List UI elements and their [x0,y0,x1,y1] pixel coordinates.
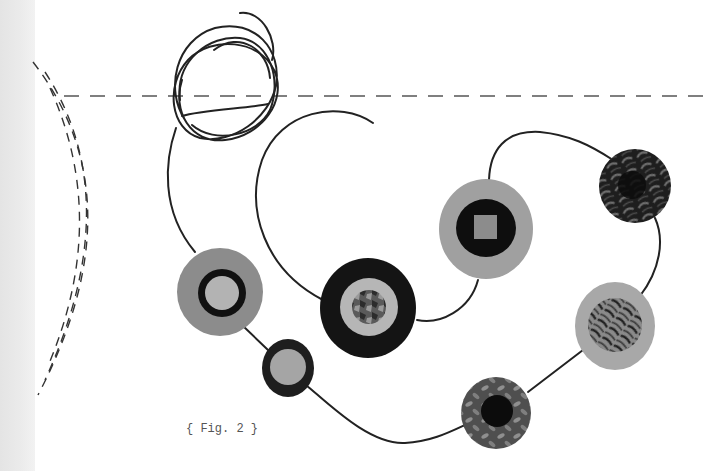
thread [168,13,660,443]
garland-illustration [0,0,713,471]
circle-3 [320,258,416,358]
circle-7 [461,377,531,449]
circle-2 [262,339,314,397]
figure-caption: { Fig. 2 } [186,422,258,436]
circle-6 [575,282,655,370]
circle-1 [177,248,263,336]
circle-5 [599,149,671,223]
stitched-arcs [33,62,88,395]
circle-4 [439,179,533,279]
